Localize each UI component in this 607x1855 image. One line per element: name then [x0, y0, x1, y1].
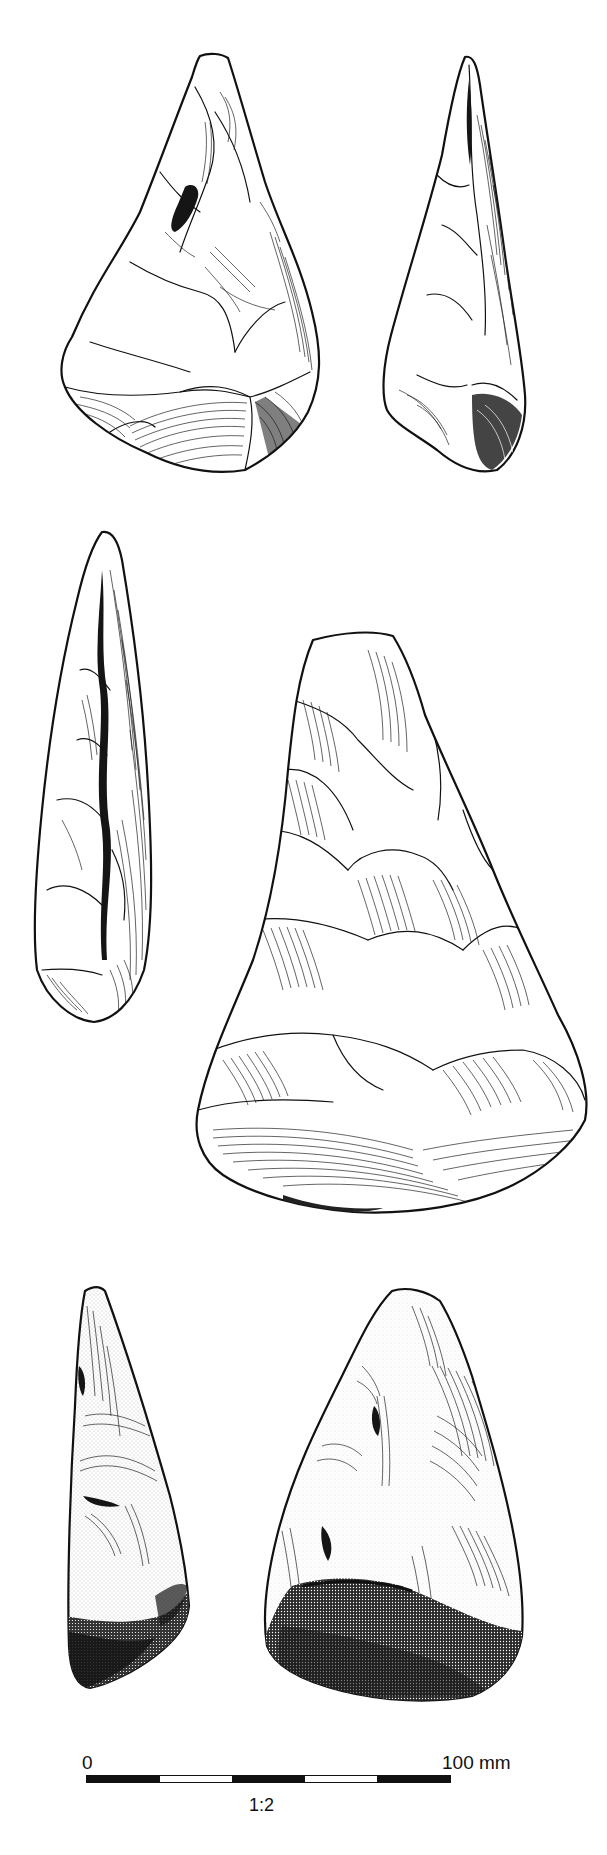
handaxe-1-drawing: [60, 52, 360, 477]
handaxe-2-profile-view: [32, 530, 157, 1025]
scale-start-label: 0: [82, 1753, 93, 1772]
scale-segment-1: [87, 1776, 160, 1782]
handaxe-3-drawing: [32, 530, 157, 1025]
scale-segment-2: [160, 1776, 233, 1782]
handaxe-4-drawing: [193, 630, 593, 1220]
scale-segment-4: [305, 1776, 378, 1782]
scale-bar: [86, 1775, 451, 1783]
handaxe-3-face-view: [262, 1286, 527, 1706]
handaxe-1-profile-view: [377, 55, 537, 475]
scale-segment-3: [232, 1776, 305, 1782]
handaxe-6-drawing: [262, 1286, 527, 1706]
handaxe-2-drawing: [377, 55, 537, 475]
handaxe-5-drawing: [65, 1286, 190, 1691]
scale-ratio-label: 1:2: [249, 1796, 274, 1814]
handaxe-1-face-view: [60, 52, 360, 477]
scale-end-label: 100 mm: [442, 1753, 511, 1772]
handaxe-3-profile-view: [65, 1286, 190, 1691]
scale-segment-5: [377, 1776, 450, 1782]
handaxe-2-face-view: [193, 630, 593, 1220]
